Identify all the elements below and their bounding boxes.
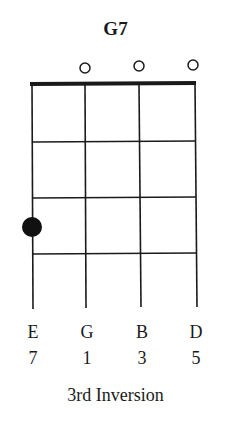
degree-e: 7 — [18, 348, 48, 369]
open-string-marker-d — [188, 60, 198, 70]
string-b — [139, 84, 141, 307]
open-string-marker-b — [134, 61, 144, 71]
degree-b: 3 — [127, 348, 157, 369]
open-string-marker-g — [80, 63, 90, 73]
string-note-b: B — [127, 322, 157, 343]
degree-g: 1 — [72, 348, 102, 369]
inversion-caption: 3rd Inversion — [0, 385, 231, 406]
string-d — [195, 83, 197, 307]
finger-dot-e-fret-3 — [22, 217, 42, 237]
string-e — [32, 84, 33, 309]
degree-d: 5 — [181, 348, 211, 369]
fret-3 — [32, 253, 197, 254]
string-note-e: E — [18, 322, 48, 343]
nut — [30, 83, 196, 84]
string-g — [85, 84, 86, 308]
chord-diagram — [0, 0, 231, 439]
fret-2 — [32, 197, 196, 198]
string-note-g: G — [72, 322, 102, 343]
string-note-d: D — [181, 322, 211, 343]
fret-1 — [32, 141, 196, 142]
